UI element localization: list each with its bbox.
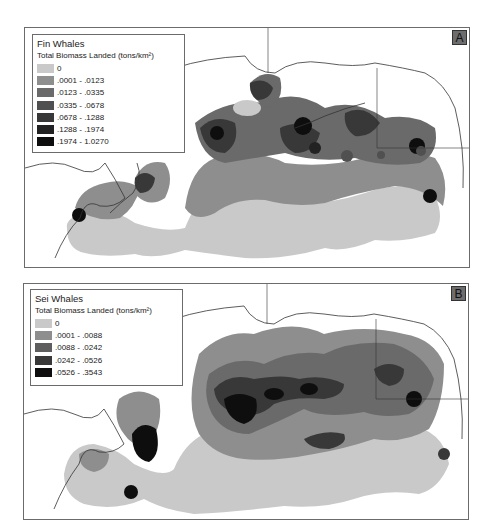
legend-swatch (37, 88, 54, 97)
legend-swatch (35, 368, 52, 377)
map-panel-fin-whales: Fin Whales Total Biomass Landed (tons/km… (24, 27, 470, 268)
legend-item: .0123 - .0335 (37, 87, 180, 99)
panel-label-b: B (451, 286, 466, 301)
legend-label: .1288 - .1974 (57, 125, 104, 134)
legend-label: .0335 - .0678 (57, 101, 104, 110)
legend-item: 0 (35, 317, 178, 329)
legend-label: .0088 - .0242 (55, 343, 102, 352)
legend-sei-whales: Sei Whales Total Biomass Landed (tons/km… (30, 289, 183, 386)
legend-label: .0001 - .0088 (55, 331, 102, 340)
legend-swatch (37, 137, 54, 146)
legend-item: .0526 - .3543 (35, 366, 178, 378)
legend-label: 0 (55, 319, 59, 328)
legend-label: .0001 - .0123 (57, 76, 104, 85)
legend-label: 0 (57, 64, 61, 73)
legend-swatch (37, 101, 54, 110)
legend-swatch (37, 76, 54, 85)
legend-label: .1974 - 1.0270 (57, 137, 109, 146)
legend-swatch (35, 319, 52, 328)
legend-item: .0001 - .0088 (35, 329, 178, 341)
legend-swatch (35, 343, 52, 352)
legend-item: .0001 - .0123 (37, 74, 180, 86)
legend-subtitle: Total Biomass Landed (tons/km²) (35, 305, 178, 317)
legend-swatch (35, 331, 52, 340)
legend-item: .0242 - .0526 (35, 354, 178, 366)
legend-item: .0335 - .0678 (37, 99, 180, 111)
panel-label-a: A (452, 30, 467, 45)
legend-swatch (35, 356, 52, 365)
legend-fin-whales: Fin Whales Total Biomass Landed (tons/km… (32, 34, 185, 153)
legend-label: .0123 - .0335 (57, 88, 104, 97)
legend-subtitle: Total Biomass Landed (tons/km²) (37, 50, 180, 62)
map-panel-sei-whales: Sei Whales Total Biomass Landed (tons/km… (23, 283, 469, 520)
legend-swatch (37, 64, 54, 73)
legend-item: .0088 - .0242 (35, 342, 178, 354)
legend-swatch (37, 113, 54, 122)
legend-item: 0 (37, 62, 180, 74)
legend-label: .0678 - .1288 (57, 113, 104, 122)
legend-item: .1974 - 1.0270 (37, 136, 180, 148)
legend-label: .0526 - .3543 (55, 368, 102, 377)
legend-title: Fin Whales (37, 38, 180, 50)
legend-item: .0678 - .1288 (37, 111, 180, 123)
legend-title: Sei Whales (35, 293, 178, 305)
legend-swatch (37, 125, 54, 134)
legend-item: .1288 - .1974 (37, 123, 180, 135)
legend-label: .0242 - .0526 (55, 356, 102, 365)
